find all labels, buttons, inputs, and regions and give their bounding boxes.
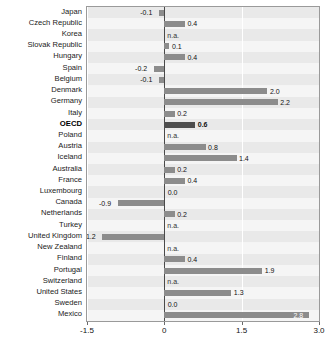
- bar-czech-republic: [164, 21, 185, 27]
- bar-austria: [164, 144, 205, 150]
- row-band: [87, 29, 319, 40]
- row-band: [87, 254, 319, 265]
- y-axis-tick: [86, 192, 87, 193]
- x-axis-tick-label: 3.0: [313, 326, 324, 335]
- y-axis-tick: [86, 57, 87, 58]
- bar-value-label: -0.2: [135, 65, 147, 72]
- bar-value-label: 0.4: [187, 256, 197, 263]
- no-data-label: n.a.: [167, 222, 179, 229]
- bar-value-label: 1.3: [234, 289, 244, 296]
- bar-value-label: 2.8: [293, 312, 303, 319]
- category-label-korea: Korea: [0, 30, 82, 38]
- row-band: [87, 63, 319, 74]
- category-label-finland: Finland: [0, 254, 82, 262]
- bar-australia: [164, 167, 174, 173]
- category-label-switzerland: Switzerland: [0, 277, 82, 285]
- bar-oecd: [164, 122, 195, 128]
- bar-value-label: -0.9: [99, 200, 111, 207]
- category-label-canada: Canada: [0, 198, 82, 206]
- y-axis-tick: [86, 91, 87, 92]
- category-label-column: JapanCzech RepublicKoreaSlovak RepublicH…: [0, 0, 82, 322]
- y-axis-tick: [86, 170, 87, 171]
- y-axis-tick: [86, 293, 87, 294]
- y-axis-tick: [86, 181, 87, 182]
- no-data-label: n.a.: [167, 278, 179, 285]
- y-axis-tick: [86, 315, 87, 316]
- bar-canada: [118, 200, 164, 206]
- category-label-japan: Japan: [0, 8, 82, 16]
- y-axis-tick: [86, 69, 87, 70]
- y-axis-tick: [86, 248, 87, 249]
- bar-value-label: 0.4: [187, 54, 197, 61]
- y-axis-tick: [86, 125, 87, 126]
- gridline: [319, 7, 320, 321]
- row-band: [87, 276, 319, 287]
- category-label-united-states: United States: [0, 288, 82, 296]
- no-data-label: n.a.: [167, 132, 179, 139]
- x-axis-tick-label: 1.5: [236, 326, 247, 335]
- no-data-label: n.a.: [167, 32, 179, 39]
- y-axis-tick: [86, 214, 87, 215]
- bar-value-label: 0.6: [198, 121, 208, 128]
- category-label-new-zealand: New Zealand: [0, 243, 82, 251]
- bar-value-label: 2.2: [280, 99, 290, 106]
- bar-value-label: 0.0: [168, 301, 178, 308]
- bar-belgium: [159, 77, 164, 83]
- category-label-united-kingdom: United Kingdom: [0, 232, 82, 240]
- category-label-iceland: Iceland: [0, 153, 82, 161]
- bar-slovak-republic: [164, 43, 169, 49]
- category-label-spain: Spain: [0, 64, 82, 72]
- category-label-france: France: [0, 176, 82, 184]
- bar-value-label: 2.0: [270, 88, 280, 95]
- row-band: [87, 108, 319, 119]
- bar-value-label: 0.4: [187, 20, 197, 27]
- y-axis-tick: [86, 158, 87, 159]
- gridline: [87, 7, 88, 321]
- bar-value-label: 0.2: [177, 110, 187, 117]
- category-label-luxembourg: Luxembourg: [0, 187, 82, 195]
- row-band: [87, 220, 319, 231]
- bar-finland: [164, 256, 185, 262]
- plot-area: -0.10.4n.a.0.10.4-0.2-0.12.02.20.20.6n.a…: [86, 6, 320, 322]
- bar-netherlands: [164, 211, 174, 217]
- bar-value-label: 1.9: [265, 267, 275, 274]
- category-label-hungary: Hungary: [0, 52, 82, 60]
- bar-value-label: -1.2: [86, 233, 96, 240]
- y-axis-tick: [86, 114, 87, 115]
- bar-value-label: 0.2: [177, 211, 187, 218]
- bar-hungary: [164, 54, 185, 60]
- y-axis-tick: [86, 147, 87, 148]
- category-label-netherlands: Netherlands: [0, 209, 82, 217]
- category-label-austria: Austria: [0, 142, 82, 150]
- x-axis-tick: [164, 322, 165, 325]
- gridline: [242, 7, 243, 321]
- category-label-italy: Italy: [0, 109, 82, 117]
- category-label-australia: Australia: [0, 165, 82, 173]
- category-label-belgium: Belgium: [0, 75, 82, 83]
- bar-united-kingdom: [102, 234, 164, 240]
- y-axis-tick: [86, 13, 87, 14]
- y-axis-tick: [86, 35, 87, 36]
- category-label-denmark: Denmark: [0, 86, 82, 94]
- row-band: [87, 7, 319, 18]
- bar-value-label: 0.1: [172, 43, 182, 50]
- y-axis-tick: [86, 102, 87, 103]
- bar-value-label: 0.0: [168, 189, 178, 196]
- bar-france: [164, 178, 185, 184]
- category-label-oecd: OECD: [0, 120, 82, 128]
- category-label-poland: Poland: [0, 131, 82, 139]
- horizontal-bar-chart: JapanCzech RepublicKoreaSlovak RepublicH…: [0, 0, 330, 349]
- x-axis-tick: [87, 322, 88, 325]
- row-band: [87, 209, 319, 220]
- y-axis-tick: [86, 226, 87, 227]
- row-band: [87, 18, 319, 29]
- x-axis-tick: [242, 322, 243, 325]
- y-axis-tick: [86, 259, 87, 260]
- category-label-sweden: Sweden: [0, 299, 82, 307]
- row-band: [87, 299, 319, 310]
- category-label-portugal: Portugal: [0, 266, 82, 274]
- y-axis-tick: [86, 80, 87, 81]
- y-axis-tick: [86, 271, 87, 272]
- row-band: [87, 130, 319, 141]
- category-label-turkey: Turkey: [0, 221, 82, 229]
